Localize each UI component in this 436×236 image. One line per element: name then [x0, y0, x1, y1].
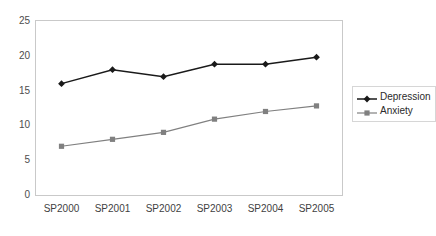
- square-marker-icon: [356, 105, 378, 117]
- x-tick-label: SP2003: [187, 203, 243, 215]
- y-axis: 0510152025: [0, 0, 30, 236]
- x-tick-label: SP2001: [85, 203, 141, 215]
- series-depression: [58, 54, 320, 87]
- legend: DepressionAnxiety: [352, 86, 436, 122]
- x-tick-label: SP2005: [289, 203, 345, 215]
- series-canvas: [36, 21, 342, 195]
- y-tick-label: 0: [6, 190, 30, 200]
- legend-label: Depression: [378, 91, 431, 103]
- diamond-marker-icon: [356, 91, 378, 103]
- x-tick-label: SP2004: [238, 203, 294, 215]
- y-tick-label: 20: [6, 51, 30, 61]
- plot-area: [35, 20, 343, 196]
- legend-item[interactable]: Anxiety: [356, 104, 431, 118]
- series-anxiety: [59, 103, 319, 149]
- y-tick-label: 25: [6, 16, 30, 26]
- y-tick-label: 10: [6, 120, 30, 130]
- y-tick-label: 5: [6, 155, 30, 165]
- legend-label: Anxiety: [378, 105, 413, 117]
- legend-item[interactable]: Depression: [356, 90, 431, 104]
- x-tick-label: SP2000: [34, 203, 90, 215]
- x-tick-label: SP2002: [136, 203, 192, 215]
- y-tick-label: 15: [6, 86, 30, 96]
